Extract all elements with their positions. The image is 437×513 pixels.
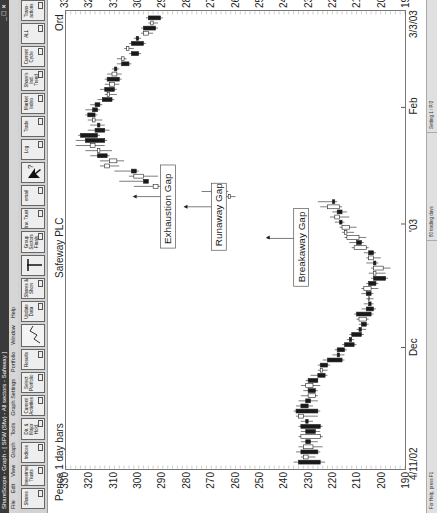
graph-button[interactable] [21, 324, 45, 347]
candle [335, 348, 347, 352]
menu-item-tools[interactable]: Tools [10, 423, 16, 436]
candle [296, 404, 313, 408]
menu-item-portfolio[interactable]: Portfolio [10, 352, 16, 372]
menu-item-file[interactable]: File [10, 500, 16, 509]
update-data-label: Update Data [24, 304, 34, 319]
y-tick-label-left: 260 [230, 472, 241, 502]
y-tick-label-left: 320 [83, 472, 94, 502]
help-pointer-icon: ? [24, 162, 44, 182]
candle [117, 62, 132, 66]
menu-item-edit[interactable]: Edit [10, 484, 16, 493]
y-tick-label-right: 210 [351, 0, 362, 8]
candle [141, 31, 153, 35]
candle [119, 179, 148, 183]
current-cycle-icon [38, 48, 43, 55]
candle [148, 21, 158, 25]
transactions-icon [38, 2, 43, 9]
menu-item-help[interactable]: Help [10, 307, 16, 318]
candle [320, 205, 342, 209]
results-label: Results [24, 352, 29, 367]
candle [323, 358, 345, 362]
candle [369, 271, 386, 275]
candle [107, 72, 122, 76]
candle [366, 261, 378, 265]
window-controls[interactable]: _ ☐ ✕ [0, 4, 9, 21]
current-cycle-button[interactable]: Current Cycle [21, 46, 45, 67]
menu-item-view[interactable]: View [10, 465, 16, 477]
current-activities-button[interactable]: Current Activities [21, 395, 45, 416]
investment-trusts-button[interactable]: Investment Trusts [21, 465, 45, 486]
candle [335, 220, 345, 224]
candle [371, 266, 390, 270]
inv-trust-button[interactable]: Inv. Trust [21, 208, 45, 229]
candle [301, 440, 318, 444]
y-tick-label-right: 250 [254, 0, 265, 8]
shares-button[interactable]: Shares [21, 488, 45, 509]
candle [76, 138, 107, 142]
shares-show-label: Shares & Show [24, 279, 34, 298]
y-tick-label-left: 220 [327, 472, 338, 502]
shares-icon [38, 490, 43, 497]
chart-area: Pence 1 day bars Safeway PLC Ord 1901902… [48, 0, 436, 513]
update-data-button[interactable]: Update Data [21, 301, 45, 322]
y-tick-label-left: 270 [205, 472, 216, 502]
all-button[interactable]: ALL [21, 23, 45, 44]
candle [88, 118, 103, 122]
candle [294, 409, 321, 413]
email-button[interactable]: email [21, 185, 45, 206]
menu-item-graph-settings[interactable]: Graph Settings [10, 379, 16, 416]
directors-major-holders-button[interactable]: Dir. & Major Hold. [21, 418, 45, 439]
x-tick-label: Feb [408, 97, 419, 114]
status-setting: Setting 1 / P/2 [427, 69, 437, 133]
candle [105, 82, 120, 86]
candle [359, 322, 369, 326]
update-data-icon [38, 303, 43, 310]
status-bar: For Help, press F1 80 trading days Setti… [426, 0, 437, 513]
annotation-label: Breakaway Gap [296, 211, 307, 282]
select-portfolio-button[interactable]: Select Portfolio [21, 372, 45, 393]
email-label: email [24, 190, 29, 201]
results-button[interactable]: Results [21, 349, 45, 370]
candle [347, 338, 354, 342]
current-cycle-label: Current Cycle [24, 49, 34, 64]
y-tick-label-right: 270 [205, 0, 216, 8]
candle [78, 133, 100, 137]
help-pointer-button[interactable]: ? [21, 162, 45, 183]
candle [117, 57, 127, 61]
candle-marker-icon [24, 255, 44, 275]
y-tick-label-right: 300 [132, 0, 143, 8]
y-tick-label-left: 200 [376, 472, 387, 502]
shares-ind-trend-icon [38, 71, 43, 78]
line-graph-icon [25, 324, 43, 344]
candle [301, 394, 318, 398]
candlestick-plot[interactable]: Breakaway GapRunaway GapExhaustion Gap [65, 10, 406, 470]
x-tick-label: 3/3/03 [408, 10, 419, 38]
y-tick-label-left: 230 [303, 472, 314, 502]
inv-trust-icon [38, 210, 43, 217]
indices-button[interactable]: Indices [21, 442, 45, 463]
candle [100, 164, 119, 168]
candle [318, 200, 337, 204]
trade-button[interactable]: Trade [21, 116, 45, 137]
transactions-button[interactable]: Trans-actions [21, 0, 45, 21]
candle [298, 399, 317, 403]
candle [301, 384, 320, 388]
group-sectors-icon [38, 233, 43, 240]
candle [97, 98, 114, 102]
market-index-button[interactable]: Market Index [21, 93, 45, 114]
candle [364, 251, 376, 255]
candle [364, 302, 374, 306]
candle [332, 353, 344, 357]
log-button[interactable]: Log [21, 139, 45, 160]
menu-item-window[interactable]: Window [10, 325, 16, 345]
group-sectors-button[interactable]: Group Sectors Finals [21, 231, 45, 252]
candle [296, 450, 320, 454]
shares-ind-trend-button[interactable]: Share's Ind. Trend [21, 69, 45, 90]
shares-show-button[interactable]: Shares & Show [21, 278, 45, 299]
candle-marker-button[interactable] [21, 255, 45, 276]
candle [318, 363, 330, 367]
menu-item-graph[interactable]: Graph [10, 443, 16, 458]
candle [296, 414, 318, 418]
directors-major-holders-label: Dir. & Major Hold. [24, 423, 39, 434]
candle [90, 123, 105, 127]
